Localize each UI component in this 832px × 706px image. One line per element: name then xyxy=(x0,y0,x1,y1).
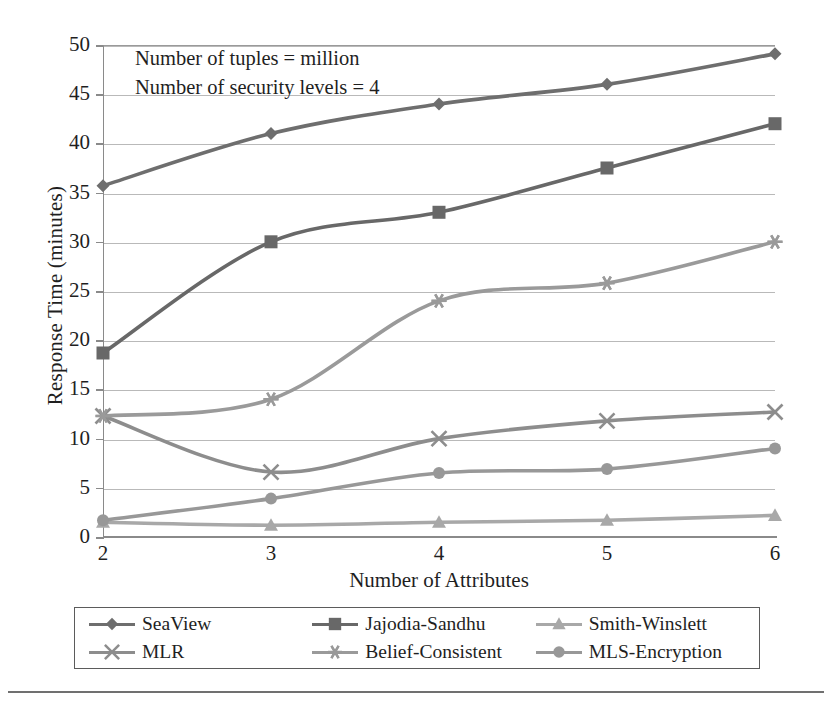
diamond-marker-icon xyxy=(106,618,118,630)
y-tick-label: 10 xyxy=(44,428,90,449)
y-tick-label: 40 xyxy=(44,132,90,153)
gridline xyxy=(104,390,775,391)
bottom-divider xyxy=(8,691,824,693)
y-tick-label: 15 xyxy=(44,378,90,399)
gridline xyxy=(104,144,775,145)
square-marker-icon xyxy=(324,613,346,635)
gridline xyxy=(104,440,775,441)
chart-legend: SeaViewJajodia-SandhuSmith-WinslettMLRBe… xyxy=(74,607,760,669)
x-tick-label: 2 xyxy=(83,543,123,564)
legend-item[interactable]: Belief-Consistent xyxy=(312,642,535,662)
legend-swatch xyxy=(89,616,135,632)
y-tick-label: 20 xyxy=(44,329,90,350)
cross-marker-icon xyxy=(101,641,123,663)
legend-label: MLR xyxy=(142,642,184,662)
y-tick-label: 35 xyxy=(44,182,90,203)
legend-label: MLS-Encryption xyxy=(589,642,722,662)
gridlines xyxy=(104,46,775,537)
legend-label: SeaView xyxy=(142,614,211,634)
x-tick-label: 4 xyxy=(419,543,459,564)
y-tick-label: 30 xyxy=(44,231,90,252)
x-axis-title: Number of Attributes xyxy=(103,568,775,593)
legend-item[interactable]: SeaView xyxy=(89,614,312,634)
gridline xyxy=(104,243,775,244)
gridline xyxy=(104,292,775,293)
legend-label: Jajodia-Sandhu xyxy=(365,614,485,634)
annotation-line-1: Number of tuples = million xyxy=(135,44,379,73)
annotation-line-2: Number of security levels = 4 xyxy=(135,73,379,102)
legend-label: Belief-Consistent xyxy=(365,642,501,662)
gridline xyxy=(104,194,775,195)
diamond-marker-icon xyxy=(101,613,123,635)
y-tick-label: 5 xyxy=(44,477,90,498)
gridline xyxy=(104,489,775,490)
triangle-marker-icon xyxy=(552,617,565,629)
chart-annotation: Number of tuples = million Number of sec… xyxy=(135,44,379,102)
circle-marker-icon xyxy=(548,641,570,663)
cross-marker-icon xyxy=(105,645,119,659)
legend-swatch xyxy=(312,616,358,632)
asterisk-marker-icon xyxy=(324,641,346,663)
x-axis-line xyxy=(103,536,777,538)
legend-swatch xyxy=(312,644,358,660)
legend-swatch xyxy=(536,644,582,660)
circle-marker-icon xyxy=(553,646,564,657)
legend-item[interactable]: MLS-Encryption xyxy=(536,642,759,662)
legend-label: Smith-Winslett xyxy=(589,614,707,634)
legend-item[interactable]: Jajodia-Sandhu xyxy=(312,614,535,634)
legend-swatch xyxy=(89,644,135,660)
y-tick-label: 25 xyxy=(44,280,90,301)
y-tick-label: 45 xyxy=(44,83,90,104)
triangle-marker-icon xyxy=(548,613,570,635)
gridline xyxy=(104,341,775,342)
y-tick-label: 50 xyxy=(44,34,90,55)
legend-item[interactable]: Smith-Winslett xyxy=(536,614,759,634)
legend-swatch xyxy=(536,616,582,632)
plot-area xyxy=(103,45,775,537)
x-tick-label: 5 xyxy=(587,543,627,564)
asterisk-marker-icon xyxy=(328,646,342,658)
legend-item[interactable]: MLR xyxy=(89,642,312,662)
square-marker-icon xyxy=(329,618,341,630)
x-tick-label: 6 xyxy=(755,543,795,564)
chart-figure: Response Time (minutes) 5045403530252015… xyxy=(0,0,832,706)
x-tick-label: 3 xyxy=(251,543,291,564)
